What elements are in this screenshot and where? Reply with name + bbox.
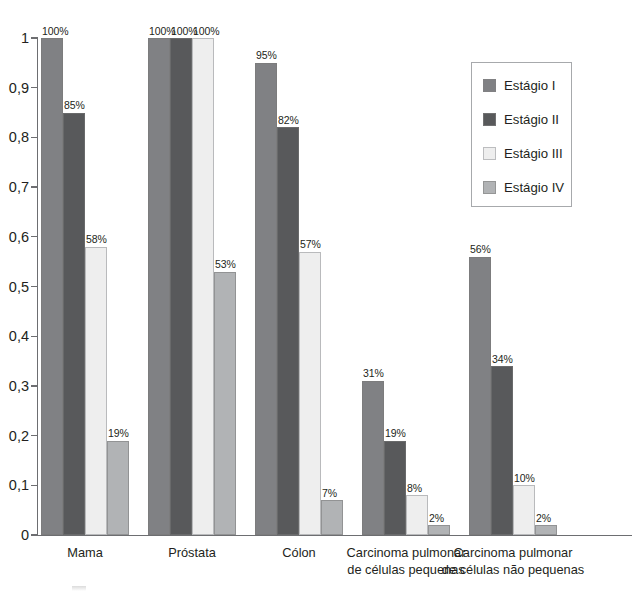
bar (63, 113, 85, 535)
legend-swatch-icon (483, 147, 496, 160)
bar (321, 500, 343, 535)
y-axis-tick-mark (31, 137, 37, 138)
bar-value-label: 19% (385, 427, 406, 439)
y-axis-tick-mark (31, 37, 37, 38)
y-axis-tick-mark (31, 534, 37, 535)
bar (255, 63, 277, 535)
bar-value-label: 95% (256, 49, 277, 61)
legend: Estágio IEstágio IIEstágio IIIEstágio IV (471, 62, 572, 207)
y-axis-tick-label: 0,9 (0, 80, 29, 96)
bar-value-label: 56% (470, 243, 491, 255)
bar-value-label: 53% (215, 258, 236, 270)
bar (192, 38, 214, 535)
bar-value-label: 57% (300, 238, 321, 250)
legend-label: Estágio III (504, 146, 563, 161)
legend-label: Estágio I (504, 78, 555, 93)
legend-label: Estágio II (504, 112, 559, 127)
bar (170, 38, 192, 535)
bar-value-label: 100% (193, 25, 219, 37)
y-axis-tick-label: 0 (0, 527, 29, 543)
bar-value-label: 7% (322, 487, 337, 499)
legend-label: Estágio IV (504, 180, 564, 195)
bar-value-label: 82% (278, 114, 299, 126)
y-axis-tick-mark (31, 236, 37, 237)
bar (214, 272, 236, 535)
y-axis-tick-label: 1 (0, 30, 29, 46)
legend-swatch-icon (483, 181, 496, 194)
x-axis-line (37, 535, 632, 536)
bar-value-label: 100% (42, 25, 68, 37)
bar (362, 381, 384, 535)
bar-value-label: 10% (514, 472, 535, 484)
bar (277, 127, 299, 535)
bar-value-label: 2% (536, 512, 551, 524)
bar (491, 366, 513, 535)
legend-swatch-icon (483, 79, 496, 92)
y-axis-line (37, 37, 38, 536)
bar (428, 525, 450, 535)
bar (85, 247, 107, 535)
y-axis-tick-label: 0,6 (0, 229, 29, 245)
y-axis-tick-label: 0,8 (0, 129, 29, 145)
y-axis-tick-label: 0,3 (0, 378, 29, 394)
y-axis-tick-mark (31, 485, 37, 486)
bar (469, 257, 491, 535)
y-axis-tick-mark (31, 286, 37, 287)
y-axis-tick-label: 0,1 (0, 477, 29, 493)
legend-item[interactable]: Estágio III (483, 146, 563, 161)
legend-item[interactable]: Estágio I (483, 78, 555, 93)
x-axis-category-label: Carcinoma pulmonar de células não pequen… (433, 545, 593, 578)
y-axis-tick-mark (31, 336, 37, 337)
y-axis-tick-mark (31, 385, 37, 386)
legend-item[interactable]: Estágio II (483, 112, 559, 127)
bar (299, 252, 321, 535)
legend-swatch-icon (483, 113, 496, 126)
y-axis-tick-label: 0,7 (0, 179, 29, 195)
bar (513, 485, 535, 535)
y-axis-tick-label: 0,2 (0, 428, 29, 444)
bar-value-label: 34% (492, 353, 513, 365)
bar-value-label: 85% (64, 99, 85, 111)
bar-value-label: 58% (86, 233, 107, 245)
bar (384, 441, 406, 535)
y-axis-tick-mark (31, 186, 37, 187)
bar-value-label: 8% (407, 482, 422, 494)
x-axis-category-label: Próstata (132, 545, 252, 562)
y-axis-tick-label: 0,5 (0, 279, 29, 295)
bar-value-label: 31% (363, 367, 384, 379)
x-axis-category-label: Mama (25, 545, 145, 562)
bar (406, 495, 428, 535)
y-axis-tick-label: 0,4 (0, 328, 29, 344)
bar (107, 441, 129, 535)
bar (535, 525, 557, 535)
bar (41, 38, 63, 535)
y-axis-tick-mark (31, 87, 37, 88)
bar-value-label: 2% (429, 512, 444, 524)
y-axis-tick-mark (31, 435, 37, 436)
bar (148, 38, 170, 535)
legend-item[interactable]: Estágio IV (483, 180, 564, 195)
bar-value-label: 19% (108, 427, 129, 439)
page-edge-artifact (72, 586, 86, 591)
